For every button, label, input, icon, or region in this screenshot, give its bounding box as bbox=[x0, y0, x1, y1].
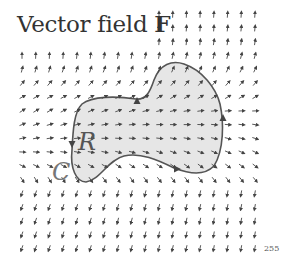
field-arrow bbox=[20, 96, 25, 99]
field-arrow bbox=[200, 232, 201, 237]
field-arrow bbox=[241, 245, 242, 250]
field-arrow bbox=[241, 40, 242, 45]
field-arrow bbox=[239, 138, 244, 139]
field-arrow bbox=[90, 245, 92, 250]
field-arrow bbox=[156, 138, 161, 139]
field-arrow bbox=[171, 177, 174, 181]
field-arrow bbox=[213, 40, 214, 45]
field-arrow bbox=[241, 53, 242, 58]
field-arrow bbox=[62, 245, 64, 250]
field-arrow bbox=[145, 204, 146, 209]
field-arrow bbox=[213, 190, 214, 195]
field-arrow bbox=[49, 67, 51, 72]
field-arrow bbox=[239, 164, 243, 167]
field-arrow bbox=[35, 191, 37, 196]
field-arrow bbox=[158, 245, 159, 250]
field-arrow bbox=[35, 67, 37, 72]
field-arrow bbox=[143, 138, 148, 139]
field-arrow bbox=[255, 40, 256, 45]
field-arrow bbox=[116, 177, 119, 181]
title-text: Vector field bbox=[17, 11, 154, 37]
field-arrow bbox=[143, 164, 148, 167]
field-arrow bbox=[200, 204, 201, 209]
field-arrow bbox=[74, 96, 79, 99]
field-arrow bbox=[158, 218, 159, 223]
field-arrow bbox=[21, 191, 23, 196]
field-arrow bbox=[226, 67, 228, 72]
field-arrow bbox=[213, 53, 214, 58]
field-arrow bbox=[186, 40, 187, 45]
field-arrow bbox=[227, 40, 228, 45]
field-arrow bbox=[49, 245, 51, 250]
field-arrow bbox=[62, 67, 64, 72]
field-arrow bbox=[62, 218, 64, 223]
field-arrow bbox=[241, 190, 242, 195]
field-arrow bbox=[144, 67, 146, 72]
field-arrow bbox=[61, 81, 65, 85]
field-arrow bbox=[227, 218, 228, 223]
field-arrow bbox=[21, 232, 23, 237]
field-arrow bbox=[158, 232, 159, 237]
field-arrow bbox=[172, 204, 173, 209]
field-arrow bbox=[172, 190, 173, 195]
field-arrow bbox=[212, 177, 215, 181]
field-arrow bbox=[117, 245, 118, 250]
field-arrow bbox=[47, 110, 52, 113]
field-arrow bbox=[254, 67, 256, 72]
field-arrow bbox=[186, 218, 187, 223]
field-arrow bbox=[172, 40, 173, 45]
field-arrow bbox=[239, 151, 244, 153]
field-arrow bbox=[33, 124, 38, 126]
field-arrow bbox=[131, 218, 132, 223]
field-arrow bbox=[49, 204, 51, 209]
field-arrow bbox=[103, 204, 105, 209]
field-arrow bbox=[172, 53, 173, 58]
figure: Vector field F R C 255 bbox=[0, 0, 292, 267]
field-arrow bbox=[253, 96, 258, 99]
field-arrow bbox=[227, 245, 228, 250]
field-arrow bbox=[35, 245, 37, 250]
field-arrow bbox=[117, 218, 118, 223]
field-arrow bbox=[35, 204, 37, 209]
field-arrow bbox=[61, 96, 66, 99]
curve-label: C bbox=[52, 158, 70, 186]
field-arrow bbox=[90, 53, 91, 58]
field-arrow bbox=[61, 124, 66, 126]
field-arrow bbox=[144, 177, 147, 181]
field-arrow bbox=[145, 190, 146, 195]
field-arrow bbox=[76, 232, 78, 237]
field-arrow bbox=[117, 67, 119, 72]
field-arrow bbox=[131, 245, 132, 250]
field-arrow bbox=[131, 232, 132, 237]
field-arrow bbox=[62, 204, 64, 209]
field-arrow bbox=[90, 191, 92, 196]
field-arrow bbox=[49, 232, 51, 237]
field-arrow bbox=[225, 151, 230, 153]
field-arrow bbox=[62, 232, 64, 237]
field-arrow bbox=[159, 53, 160, 58]
field-arrow bbox=[240, 67, 242, 72]
field-arrow bbox=[186, 232, 187, 237]
field-arrow bbox=[131, 53, 132, 58]
field-arrow bbox=[252, 124, 257, 125]
field-arrow bbox=[252, 138, 257, 140]
field-arrow bbox=[75, 81, 79, 85]
field-arrow bbox=[116, 164, 121, 167]
field-arrow bbox=[47, 124, 52, 126]
field-arrow bbox=[200, 218, 201, 223]
field-arrow bbox=[103, 67, 105, 72]
field-arrow bbox=[253, 164, 257, 167]
field-arrow bbox=[225, 164, 229, 167]
field-arrow bbox=[33, 110, 38, 113]
field-arrow bbox=[61, 110, 66, 113]
field-arrow bbox=[186, 190, 187, 195]
field-arrow bbox=[49, 218, 51, 223]
field-arrow bbox=[117, 190, 118, 195]
field-arrow bbox=[226, 177, 229, 181]
field-arrow bbox=[90, 232, 92, 237]
field-arrow bbox=[213, 204, 214, 209]
field-arrow bbox=[186, 245, 187, 250]
field-arrow bbox=[241, 232, 242, 237]
field-arrow bbox=[186, 204, 187, 209]
field-arrow bbox=[213, 232, 214, 237]
